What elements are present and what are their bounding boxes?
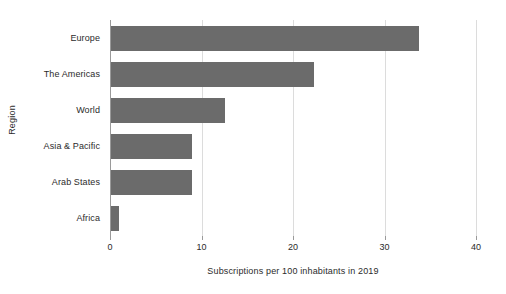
bar [111,206,119,231]
x-axis-tick-label: 10 [182,242,222,252]
bar-chart: Region EuropeThe AmericasWorldAsia & Pac… [0,0,506,294]
x-axis-tick-label: 0 [90,242,130,252]
gridline [385,20,386,236]
x-axis-tick-mark [385,236,386,240]
x-axis-tick-label: 30 [365,242,405,252]
plot-area [110,20,476,236]
bar [111,98,225,123]
gridline [293,20,294,236]
x-axis-tick-mark [293,236,294,240]
x-axis-tick-mark [110,236,111,240]
bar [111,170,192,195]
x-axis: 010203040 [110,236,476,262]
y-axis-tick-label: World [76,104,100,116]
x-axis-tick-mark [476,236,477,240]
bar [111,62,314,87]
y-axis-tick-label: The Americas [44,68,100,80]
x-axis-tick-label: 40 [456,242,496,252]
y-axis-line [110,20,111,236]
x-axis-tick-mark [202,236,203,240]
x-axis-title: Subscriptions per 100 inhabitants in 201… [110,266,476,276]
y-axis-tick-label: Africa [76,212,100,224]
y-axis-tick-label: Europe [70,32,100,44]
bar [111,134,192,159]
y-axis-tick-label: Asia & Pacific [44,140,100,152]
y-axis-tick-label: Arab States [52,176,100,188]
y-axis-title: Region [0,0,24,240]
y-axis-title-text: Region [7,105,17,135]
bar [111,26,419,51]
x-axis-tick-label: 20 [273,242,313,252]
y-axis-tick-labels: EuropeThe AmericasWorldAsia & PacificAra… [24,20,106,236]
gridline [202,20,203,236]
gridline [476,20,477,236]
